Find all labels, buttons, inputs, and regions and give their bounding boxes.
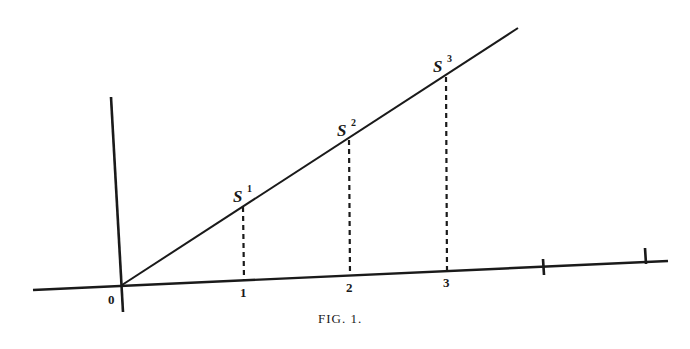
dashed-projection-3: [446, 77, 447, 270]
sloped-line: [122, 28, 518, 285]
point-label-s3-superscript: 3: [447, 53, 452, 64]
dashed-projection-2: [349, 140, 350, 275]
axis-tick-label-1: 1: [240, 285, 247, 300]
figure-caption: FIG. 1.: [318, 311, 362, 326]
axis-tick-mark-4: [543, 259, 544, 275]
figure-diagram: 0 1 2 3 S 1 S 2 S 3 FIG. 1.: [0, 0, 690, 349]
point-label-s3: S: [433, 57, 442, 76]
axis-tick-label-3: 3: [443, 275, 450, 290]
point-label-s2: S: [337, 121, 346, 140]
point-label-s2-superscript: 2: [351, 117, 356, 128]
origin-label: 0: [108, 292, 115, 307]
axis-tick-mark-5: [645, 248, 646, 264]
axis-tick-label-2: 2: [346, 280, 353, 295]
point-label-s1-superscript: 1: [247, 183, 252, 194]
dashed-projection-1: [243, 207, 244, 280]
point-label-s1: S: [233, 187, 242, 206]
vertical-axis: [111, 97, 123, 312]
